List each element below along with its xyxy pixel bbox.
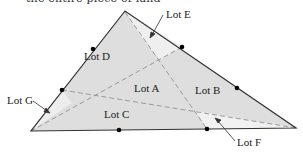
dot-right-lower [235, 86, 240, 91]
dot-bottom-right [205, 127, 210, 132]
label-lot-e: Lot E [166, 8, 191, 20]
label-lot-a: Lot A [134, 82, 159, 94]
dot-left-lower [60, 88, 65, 93]
land-triangle [31, 11, 296, 131]
label-lot-b: Lot B [195, 84, 220, 96]
dot-bottom-left [117, 128, 122, 133]
label-lot-f: Lot F [237, 136, 261, 148]
dot-right-upper [180, 45, 185, 50]
label-lot-c: Lot C [104, 108, 129, 120]
label-lot-g: Lot G [7, 94, 33, 106]
label-lot-d: Lot D [84, 50, 110, 62]
land-lots-diagram: Lot D Lot A Lot B Lot C Lot E Lot F Lot … [0, 0, 303, 153]
